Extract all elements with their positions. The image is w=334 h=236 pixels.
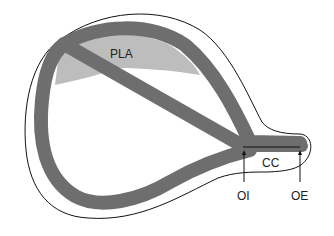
cc-label: CC (262, 156, 280, 170)
oe-label: OE (291, 189, 308, 203)
oi-label: OI (237, 189, 250, 203)
pla-label: PLA (110, 47, 133, 61)
flask-diagram: PLA CC OI OE (0, 0, 334, 236)
